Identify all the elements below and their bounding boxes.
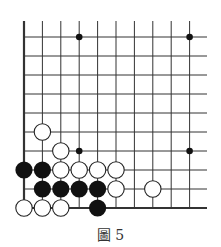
black-stone-icon	[34, 180, 51, 197]
white-stone-icon	[108, 181, 124, 197]
white-stone-icon	[34, 200, 50, 216]
white-stone-icon	[108, 162, 124, 178]
white-stone-icon	[53, 162, 69, 178]
star-point-icon	[186, 148, 193, 155]
go-board-diagram	[0, 0, 221, 222]
black-stone-icon	[71, 180, 88, 197]
white-stone-icon	[89, 162, 105, 178]
white-stone-icon	[71, 162, 87, 178]
white-stone-icon	[145, 181, 161, 197]
figure-caption: 圖 5	[0, 224, 221, 244]
white-stone-icon	[16, 200, 32, 216]
star-point-icon	[76, 148, 83, 155]
black-stone-icon	[89, 180, 106, 197]
black-stone-icon	[52, 180, 69, 197]
black-stone-icon	[89, 199, 106, 216]
star-point-icon	[76, 34, 83, 41]
white-stone-icon	[53, 200, 69, 216]
white-stone-icon	[53, 143, 69, 159]
star-point-icon	[186, 34, 193, 41]
black-stone-icon	[34, 161, 51, 178]
board-grid	[24, 21, 207, 208]
white-stone-icon	[34, 124, 50, 140]
black-stone-icon	[15, 161, 32, 178]
